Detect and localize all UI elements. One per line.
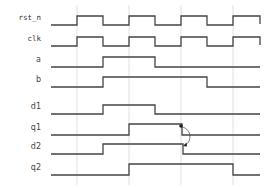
signal-label-q2: q2: [31, 163, 41, 172]
signal-label-a: a: [36, 55, 41, 64]
gridlines: [77, 5, 233, 185]
signal-label-q1: q1: [31, 123, 41, 132]
waveform-b: [51, 77, 260, 87]
signal-label-b: b: [36, 75, 41, 84]
waveform-clk: [51, 37, 260, 46]
signal-labels: rst_nclkabd1q1d2q2: [18, 13, 41, 172]
waveform-rst_n: [51, 16, 260, 25]
signal-label-clk: clk: [27, 34, 41, 43]
causal-arrow: [182, 127, 190, 145]
waveform-d2: [51, 144, 260, 154]
waveform-a: [51, 57, 260, 67]
waveform-q2: [51, 164, 260, 175]
waveform-d1: [51, 105, 260, 114]
signal-label-rst_n: rst_n: [18, 13, 41, 22]
timing-diagram: rst_nclkabd1q1d2q2: [0, 0, 276, 188]
signal-label-d2: d2: [31, 142, 41, 151]
waveforms: [51, 16, 260, 175]
waveform-q1: [51, 124, 260, 135]
signal-label-d1: d1: [31, 102, 41, 111]
